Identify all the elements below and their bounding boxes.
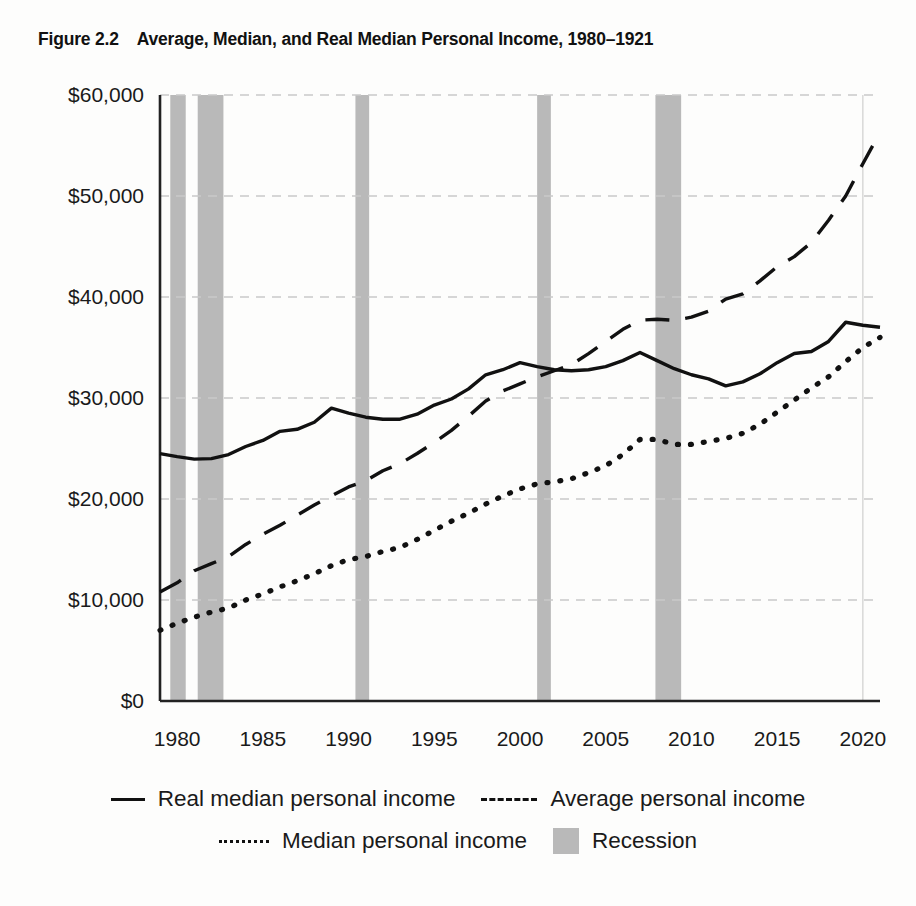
dotted-line-swatch xyxy=(219,840,269,843)
legend-row-2: Median personal income Recession xyxy=(0,828,916,854)
solid-line-swatch xyxy=(111,798,145,801)
x-tick-label-8: 2020 xyxy=(839,727,886,751)
legend-item-recession: Recession xyxy=(553,828,697,854)
x-tick-label-7: 2015 xyxy=(754,727,801,751)
y-tick-label-3: $30,000 xyxy=(68,386,144,410)
x-tick-label-0: 1980 xyxy=(154,727,201,751)
x-tick-label-5: 2005 xyxy=(582,727,629,751)
x-tick-label-3: 1995 xyxy=(411,727,458,751)
legend-item-average-personal-income: Average personal income xyxy=(481,786,805,812)
series-lines-group xyxy=(160,132,880,630)
legend-label-real-median-personal-income: Real median personal income xyxy=(158,786,456,812)
y-tick-label-4: $40,000 xyxy=(68,285,144,309)
figure-container: Figure 2.2Average, Median, and Real Medi… xyxy=(0,0,916,906)
legend-item-median-personal-income: Median personal income xyxy=(219,828,527,854)
gridlines-group xyxy=(160,95,880,701)
y-tick-label-2: $20,000 xyxy=(68,487,144,511)
legend-label-recession: Recession xyxy=(592,828,697,854)
series-line-real-median-personal-income xyxy=(160,322,880,459)
y-tick-label-0: $0 xyxy=(121,689,144,713)
income-line-chart xyxy=(0,0,916,906)
x-tick-label-4: 2000 xyxy=(497,727,544,751)
legend-item-real-median-personal-income: Real median personal income xyxy=(111,786,456,812)
legend-label-average-personal-income: Average personal income xyxy=(550,786,805,812)
x-tick-label-6: 2010 xyxy=(668,727,715,751)
y-tick-label-1: $10,000 xyxy=(68,588,144,612)
series-line-median-personal-income xyxy=(160,337,880,630)
legend-row-1: Real median personal income Average pers… xyxy=(0,786,916,812)
y-tick-label-6: $60,000 xyxy=(68,83,144,107)
x-tick-label-1: 1985 xyxy=(239,727,286,751)
dashed-line-swatch xyxy=(481,798,537,801)
y-tick-label-5: $50,000 xyxy=(68,184,144,208)
legend-label-median-personal-income: Median personal income xyxy=(282,828,527,854)
gray-band-swatch xyxy=(553,828,579,854)
x-tick-label-2: 1990 xyxy=(325,727,372,751)
chart-legend: Real median personal income Average pers… xyxy=(0,786,916,870)
